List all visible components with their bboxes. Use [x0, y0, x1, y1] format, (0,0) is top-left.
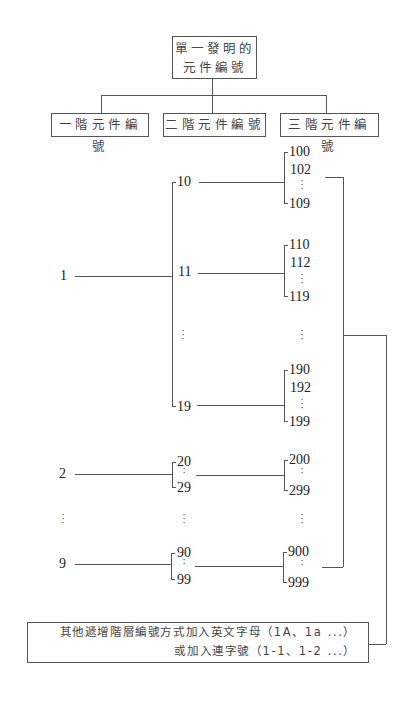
bracket-tick — [171, 579, 175, 580]
ellipsis-icon: ··· — [179, 328, 187, 340]
level1-item-1: 1 — [60, 269, 67, 283]
bracket-tick — [284, 245, 288, 246]
connector — [343, 335, 386, 336]
bracket-tick — [284, 460, 288, 461]
level2-item-29: 29 — [177, 481, 191, 495]
level3-item-190: 190 — [289, 363, 310, 377]
bracket-tick — [284, 296, 288, 297]
bracket-tick — [284, 421, 288, 422]
level3-header: 三階元件編號 — [280, 113, 379, 137]
ellipsis-icon: ··· — [298, 512, 306, 524]
level2-header: 二階元件編號 — [163, 113, 266, 137]
ellipsis-icon: ·· — [298, 558, 306, 566]
bracket-tick — [284, 490, 288, 491]
bracket-tick — [283, 552, 287, 553]
connector — [326, 95, 327, 113]
ellipsis-icon: ··· — [59, 512, 67, 524]
level2-item-19: 19 — [177, 400, 191, 414]
bracket — [284, 152, 285, 203]
bracket — [283, 552, 284, 582]
level3-item-119: 119 — [289, 290, 309, 304]
ellipsis-icon: ··· — [298, 178, 306, 190]
connector — [366, 644, 386, 645]
bracket — [284, 245, 285, 296]
connector — [198, 273, 284, 274]
ellipsis-icon: ··· — [298, 397, 306, 409]
connector — [196, 475, 284, 476]
connector — [197, 405, 284, 406]
level3-item-100: 100 — [289, 145, 310, 159]
bracket-tick — [284, 203, 288, 204]
ellipsis-icon: ·· — [298, 466, 306, 474]
bracket — [171, 553, 172, 579]
ellipsis-icon: ·· — [180, 466, 188, 474]
connector — [75, 564, 171, 565]
level1-header-label: 一階元件編號 — [59, 117, 142, 154]
bracket-tick — [172, 462, 176, 463]
ellipsis-icon: ··· — [298, 272, 306, 284]
connector — [212, 95, 213, 113]
connector — [212, 79, 213, 95]
connector — [75, 276, 172, 277]
bracket-tick — [283, 582, 287, 583]
root-label-line1: 單一發明的 — [173, 39, 256, 58]
ellipsis-icon: ·· — [180, 557, 188, 565]
ellipsis-icon: ··· — [298, 328, 306, 340]
connector — [101, 95, 326, 96]
bracket — [172, 182, 173, 406]
root-node: 單一發明的 元件編號 — [172, 36, 257, 79]
bracket-tick — [172, 182, 176, 183]
connector — [195, 566, 283, 567]
level3-item-109: 109 — [289, 197, 310, 211]
note-line1: 其他遞增階層編號方式加入英文字母（1A、1a ...） — [28, 623, 356, 642]
connector — [386, 335, 387, 644]
level2-header-label: 二階元件編號 — [165, 117, 264, 132]
bracket-tick — [284, 152, 288, 153]
ellipsis-icon: ··· — [180, 512, 188, 524]
bracket — [172, 462, 173, 487]
level3-item-299: 299 — [289, 484, 310, 498]
note-box: 其他遞增階層編號方式加入英文字母（1A、1a ...） 或加入連字號（1-1、1… — [27, 622, 369, 663]
level1-item-9: 9 — [59, 557, 66, 571]
bracket-tick — [284, 370, 288, 371]
note-line2: 或加入連字號（1-1、1-2 ...） — [28, 642, 356, 661]
bracket — [284, 370, 285, 421]
level2-item-99: 99 — [177, 573, 191, 587]
connector — [199, 182, 284, 183]
root-label-line2: 元件編號 — [173, 58, 256, 77]
connector — [75, 474, 172, 475]
connector — [101, 95, 102, 113]
connector — [325, 177, 343, 178]
bracket-tick — [171, 553, 175, 554]
level2-item-10: 10 — [177, 175, 191, 189]
level2-item-11: 11 — [178, 265, 191, 279]
level3-item-900: 900 — [288, 545, 309, 559]
level3-item-999: 999 — [288, 576, 309, 590]
bracket-tick — [172, 487, 176, 488]
connector — [322, 567, 343, 568]
level3-item-110: 110 — [289, 238, 309, 252]
level3-item-199: 199 — [289, 415, 310, 429]
bracket — [284, 460, 285, 490]
connector — [343, 177, 344, 567]
level1-item-2: 2 — [59, 467, 66, 481]
level1-header: 一階元件編號 — [51, 113, 149, 137]
bracket-tick — [172, 406, 176, 407]
